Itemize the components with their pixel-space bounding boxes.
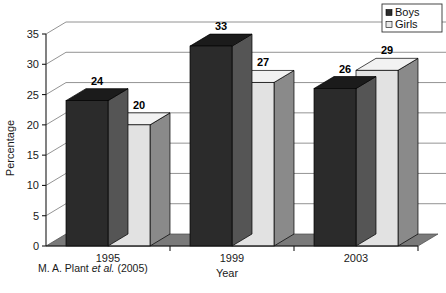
bar-side-face: [356, 77, 376, 246]
bar-value-label: 20: [133, 99, 145, 111]
y-axis-tick-label: 35: [27, 28, 39, 40]
legend-swatch-girls-icon: [386, 22, 392, 28]
bar-value-label: 29: [381, 44, 393, 56]
bar-front-face: [66, 101, 108, 246]
bar-side-face: [150, 113, 170, 246]
bar-chart-figure: 05101520253035292620032733199920241995 P…: [0, 0, 446, 293]
y-axis-title: Percentage: [4, 120, 16, 176]
bar-boys: [66, 89, 128, 246]
x-axis-category-label: 2003: [344, 252, 368, 264]
y-axis-tick-label: 30: [27, 58, 39, 70]
x-axis-title: Year: [216, 267, 239, 279]
legend-label-girls: Girls: [395, 18, 418, 30]
y-axis-tick-label: 15: [27, 149, 39, 161]
caption-prefix: M. A. Plant: [38, 262, 92, 274]
y-axis-tick-label: 5: [33, 210, 39, 222]
legend-swatch-boys-icon: [386, 10, 392, 16]
bar-front-face: [190, 46, 232, 246]
bar-boys: [190, 34, 252, 246]
bar-value-label: 33: [215, 20, 227, 32]
y-axis-tick-label: 20: [27, 119, 39, 131]
source-caption: M. A. Plant et al. (2005): [38, 262, 148, 274]
chart-bars: [66, 34, 418, 246]
bar-value-label: 27: [257, 56, 269, 68]
bar-side-face: [232, 34, 252, 246]
x-axis-category-label: 1999: [220, 252, 244, 264]
bar-boys: [314, 77, 376, 246]
y-axis-tick-label: 25: [27, 89, 39, 101]
chart-canvas: 05101520253035292620032733199920241995 P…: [0, 0, 446, 293]
y-axis-tick-label: 0: [33, 240, 39, 252]
bar-side-face: [398, 58, 418, 246]
chart-legend: Boys Girls: [382, 4, 442, 32]
bar-front-face: [314, 89, 356, 246]
bar-side-face: [274, 70, 294, 246]
legend-label-boys: Boys: [395, 6, 420, 18]
bar-value-label: 24: [91, 75, 104, 87]
bar-value-label: 26: [339, 63, 351, 75]
y-axis-tick-label: 10: [27, 179, 39, 191]
bar-side-face: [108, 89, 128, 246]
caption-suffix: (2005): [114, 262, 147, 274]
caption-italic: et al.: [92, 262, 115, 274]
